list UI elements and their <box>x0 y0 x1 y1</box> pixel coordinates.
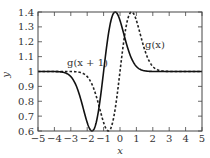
y-tick-label: 1.2 <box>18 36 34 47</box>
x-tick-label: 1 <box>133 133 139 144</box>
line-chart: −5−4−3−2−10123450.60.70.80.911.11.21.31.… <box>0 0 210 158</box>
x-tick-label: 5 <box>199 133 205 144</box>
y-tick-label: 1.3 <box>18 21 34 32</box>
y-axis-label: y <box>0 72 11 79</box>
x-tick-label: −2 <box>80 133 95 144</box>
annotation-g-x: g(x) <box>145 39 165 50</box>
x-tick-label: −1 <box>96 133 111 144</box>
y-tick-label: 1 <box>28 66 34 77</box>
y-tick-label: 1.4 <box>18 7 34 18</box>
y-tick-label: 0.9 <box>18 81 34 92</box>
x-tick-label: 3 <box>166 133 172 144</box>
x-tick-label: 0 <box>117 133 123 144</box>
x-tick-label: 2 <box>150 133 156 144</box>
x-axis-label: x <box>117 145 123 156</box>
y-tick-label: 1.1 <box>18 51 34 62</box>
y-tick-label: 0.8 <box>18 96 34 107</box>
annotation-g-x-plus-1: g(x + 1) <box>67 57 108 68</box>
y-tick-label: 0.6 <box>18 126 34 137</box>
x-tick-label: −4 <box>47 133 62 144</box>
y-tick-label: 0.7 <box>18 111 34 122</box>
x-tick-label: 4 <box>182 133 188 144</box>
x-tick-label: −3 <box>63 133 78 144</box>
